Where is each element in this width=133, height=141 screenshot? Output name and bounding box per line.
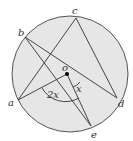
label-b: b (18, 27, 24, 38)
circle-theorem-diagram: o a b c d e 2x x (0, 0, 133, 141)
label-e: e (91, 129, 97, 140)
angle-label-2x: 2x (46, 89, 59, 100)
angle-label-x: x (76, 83, 82, 94)
label-c: c (72, 5, 78, 16)
label-d: d (118, 98, 124, 109)
label-o: o (62, 62, 68, 73)
label-a: a (8, 97, 14, 108)
diagram-canvas: o a b c d e 2x x (0, 0, 133, 141)
circle (12, 16, 128, 132)
